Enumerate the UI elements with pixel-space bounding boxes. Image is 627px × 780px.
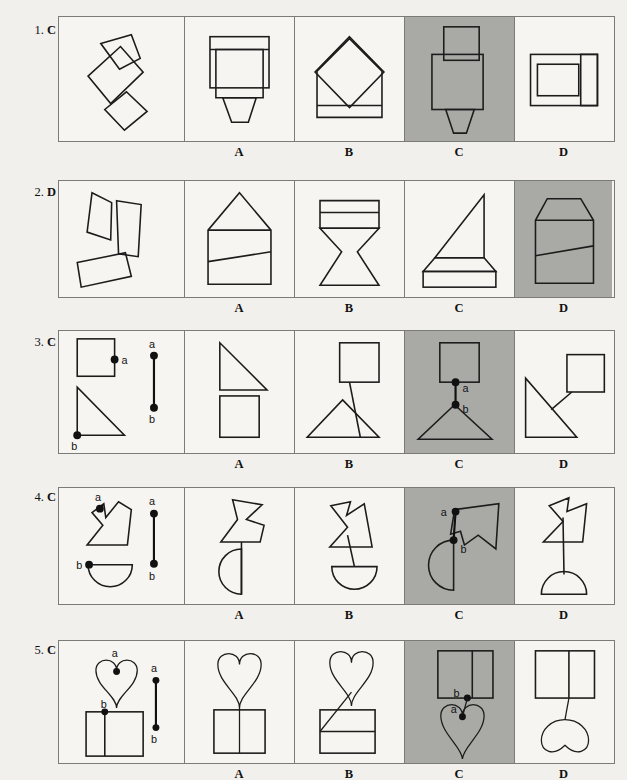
row-5-prompt-figure: a b a b <box>59 641 184 763</box>
row-5-option-c-label-b: b <box>454 687 460 699</box>
row-4-prompt-figure: a b a b <box>59 488 184 604</box>
row-3-label-d: D <box>514 458 613 471</box>
row-1-grid <box>58 16 615 142</box>
row-1-option-d-figure <box>515 17 612 141</box>
row-4-number: 4. <box>35 490 44 504</box>
row-1-label-a: A <box>184 146 294 159</box>
row-3-connector-label-a: a <box>149 338 156 350</box>
row-4-option-c-figure: a b <box>405 488 514 604</box>
row-3-grid: a b a b <box>58 330 615 454</box>
row-4-answer: C <box>47 490 56 504</box>
row-3-prompt-label-a: a <box>122 354 129 366</box>
question-row-2: 2.D <box>0 180 627 320</box>
row-5-connector-label-a: a <box>151 662 158 674</box>
row-3-option-b-figure <box>295 331 404 453</box>
row-4-prompt-label-b: b <box>76 559 82 571</box>
question-row-4: 4.C a b a b <box>0 487 627 627</box>
row-2-option-labels: A B C D <box>184 302 615 315</box>
row-4-label-b: B <box>294 609 404 622</box>
row-4-option-labels: A B C D <box>184 609 615 622</box>
row-3-option-c[interactable]: a b <box>405 331 515 453</box>
row-4-option-d-figure <box>515 488 612 604</box>
row-1-option-a[interactable] <box>185 17 295 141</box>
row-2-tag: 2.D <box>8 186 56 199</box>
row-2-answer: D <box>47 185 56 199</box>
row-3-option-d-figure <box>515 331 612 453</box>
row-4-label-d: D <box>514 609 613 622</box>
row-4-connector-label-a: a <box>149 495 155 507</box>
row-3-label-c: C <box>404 458 514 471</box>
row-4-option-c-label-b: b <box>460 543 466 555</box>
row-5-option-d-figure <box>515 641 612 763</box>
row-4-option-d[interactable] <box>515 488 612 604</box>
row-5-label-b: B <box>294 768 404 780</box>
row-3-option-c-label-b: b <box>462 403 468 415</box>
row-1-option-b[interactable] <box>295 17 405 141</box>
row-2-option-d[interactable] <box>515 181 612 297</box>
row-2-label-a: A <box>184 302 294 315</box>
row-5-prompt-cell: a b a b <box>59 641 185 763</box>
row-2-grid <box>58 180 615 298</box>
row-4-option-a[interactable] <box>185 488 295 604</box>
row-2-option-b-figure <box>295 181 404 297</box>
row-5-option-labels: A B C D <box>184 768 615 780</box>
question-row-1: 1.C <box>0 16 627 162</box>
row-1-option-labels: A B C D <box>184 146 615 159</box>
row-1-number: 1. <box>35 23 44 37</box>
row-1-option-b-figure <box>295 17 404 141</box>
row-2-option-c[interactable] <box>405 181 515 297</box>
row-2-label-b: B <box>294 302 404 315</box>
row-1-label-b: B <box>294 146 404 159</box>
row-3-prompt-figure: a b a b <box>59 331 184 453</box>
row-3-tag: 3.C <box>8 336 56 349</box>
row-4-option-a-figure <box>185 488 294 604</box>
row-5-tag: 5.C <box>8 644 56 657</box>
row-4-label-a: A <box>184 609 294 622</box>
row-2-option-c-figure <box>405 181 514 297</box>
row-4-option-b[interactable] <box>295 488 405 604</box>
row-3-option-labels: A B C D <box>184 458 615 471</box>
row-5-connector-label-b: b <box>151 733 157 745</box>
row-5-option-c-figure: b a <box>405 641 514 763</box>
row-4-tag: 4.C <box>8 491 56 504</box>
row-1-option-a-figure <box>185 17 294 141</box>
row-2-option-d-figure <box>515 181 612 297</box>
row-4-option-c-label-a: a <box>441 506 447 518</box>
row-5-grid: a b a b <box>58 640 615 764</box>
row-1-prompt-figure <box>59 17 184 141</box>
row-4-grid: a b a b <box>58 487 615 605</box>
row-5-answer: C <box>47 643 56 657</box>
row-5-prompt-label-b: b <box>101 698 107 710</box>
row-3-prompt-label-b: b <box>71 440 77 452</box>
row-1-option-d[interactable] <box>515 17 612 141</box>
row-1-prompt-cell <box>59 17 185 141</box>
row-2-label-d: D <box>514 302 613 315</box>
row-5-option-b-figure <box>295 641 404 763</box>
question-row-3: 3.C a b a b <box>0 330 627 475</box>
row-5-option-a-figure <box>185 641 294 763</box>
row-5-option-c[interactable]: b a <box>405 641 515 763</box>
row-3-number: 3. <box>35 335 44 349</box>
row-1-label-d: D <box>514 146 613 159</box>
row-1-option-c[interactable] <box>405 17 515 141</box>
row-3-option-d[interactable] <box>515 331 612 453</box>
row-5-prompt-label-a: a <box>112 647 119 659</box>
row-1-answer: C <box>47 23 56 37</box>
question-row-5: 5.C a b a b <box>0 640 627 780</box>
row-5-option-c-label-a: a <box>451 703 458 715</box>
row-4-label-c: C <box>404 609 514 622</box>
row-1-tag: 1.C <box>8 24 56 37</box>
row-2-option-a[interactable] <box>185 181 295 297</box>
row-5-option-d[interactable] <box>515 641 612 763</box>
row-3-prompt-cell: a b a b <box>59 331 185 453</box>
row-3-option-a[interactable] <box>185 331 295 453</box>
row-5-option-b[interactable] <box>295 641 405 763</box>
row-3-option-b[interactable] <box>295 331 405 453</box>
row-2-prompt-cell <box>59 181 185 297</box>
row-2-option-b[interactable] <box>295 181 405 297</box>
row-1-label-c: C <box>404 146 514 159</box>
row-2-prompt-figure <box>59 181 184 297</box>
row-4-option-c[interactable]: a b <box>405 488 515 604</box>
row-5-option-a[interactable] <box>185 641 295 763</box>
row-3-option-a-figure <box>185 331 294 453</box>
